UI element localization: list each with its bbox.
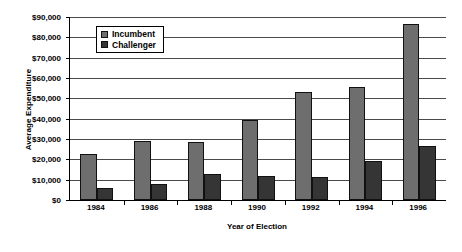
x-tick-label: 1984 xyxy=(87,203,105,212)
y-tick-label: $40,000 xyxy=(32,114,61,123)
x-tick-label: 1988 xyxy=(194,203,212,212)
legend-swatch-icon xyxy=(101,31,108,38)
bar-incumbent-1994 xyxy=(349,87,366,200)
y-tick-label: $0 xyxy=(52,196,61,205)
legend-swatch-icon xyxy=(101,41,108,48)
bar-challenger-1990 xyxy=(258,176,275,200)
y-tick-label: $60,000 xyxy=(32,74,61,83)
bar-incumbent-1984 xyxy=(80,154,97,200)
legend-label: Incumbent xyxy=(112,30,155,39)
x-tick-label: 1996 xyxy=(409,203,427,212)
bar-incumbent-1992 xyxy=(295,92,312,200)
y-tick-label: $70,000 xyxy=(32,53,61,62)
bar-chart: Average Expenditure $0$10,000$20,000$30,… xyxy=(0,0,462,252)
legend-item-challenger: Challenger xyxy=(101,41,156,50)
bar-challenger-1992 xyxy=(312,177,329,200)
x-tick-label: 1994 xyxy=(356,203,374,212)
y-tick-mark xyxy=(66,200,70,201)
bar-incumbent-1990 xyxy=(242,120,259,200)
bar-incumbent-1986 xyxy=(134,141,151,200)
y-tick-label: $10,000 xyxy=(32,175,61,184)
y-tick-label: $50,000 xyxy=(32,94,61,103)
x-axis-tick-labels: 1984198619881990199219941996 xyxy=(69,203,445,219)
legend-item-incumbent: Incumbent xyxy=(101,30,156,39)
legend: IncumbentChallenger xyxy=(96,26,164,53)
bar-challenger-1996 xyxy=(419,146,436,200)
bar-incumbent-1996 xyxy=(403,24,420,200)
y-tick-label: $30,000 xyxy=(32,135,61,144)
bar-challenger-1984 xyxy=(97,188,114,200)
x-tick-label: 1986 xyxy=(141,203,159,212)
x-tick-label: 1990 xyxy=(248,203,266,212)
x-axis-title: Year of Election xyxy=(69,222,445,231)
bar-incumbent-1988 xyxy=(188,142,205,200)
y-tick-label: $20,000 xyxy=(32,155,61,164)
y-tick-label: $80,000 xyxy=(32,33,61,42)
bar-challenger-1988 xyxy=(204,174,221,200)
x-tick-label: 1992 xyxy=(302,203,320,212)
y-tick-label: $90,000 xyxy=(32,13,61,22)
legend-label: Challenger xyxy=(112,41,156,50)
y-axis-tick-labels: $0$10,000$20,000$30,000$40,000$50,000$60… xyxy=(0,0,66,252)
bar-challenger-1994 xyxy=(365,161,382,200)
bar-challenger-1986 xyxy=(151,184,168,200)
